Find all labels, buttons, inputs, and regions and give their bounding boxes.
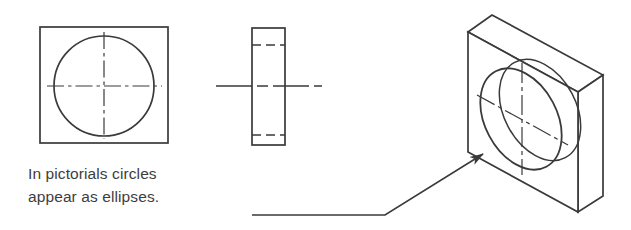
annotation-leader (252, 154, 483, 215)
pictorial-right-face (578, 75, 603, 212)
annotation-note: In pictorials circles appear as ellipses… (28, 165, 159, 205)
annotation-line-2: appear as ellipses. (28, 188, 159, 205)
annotation-line-1: In pictorials circles (28, 165, 157, 182)
front-view (40, 27, 168, 143)
drawing-canvas: In pictorials circles appear as ellipses… (0, 0, 631, 230)
pictorial-view (464, 15, 603, 212)
leader-arrow-icon (252, 154, 483, 215)
technical-drawing-figure: In pictorials circles appear as ellipses… (0, 0, 631, 230)
side-view (216, 28, 322, 145)
